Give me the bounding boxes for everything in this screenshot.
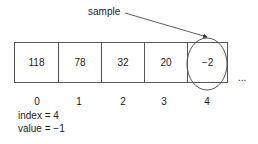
array-cell-0: 118 [14, 42, 59, 83]
array-cell-2: 32 [101, 42, 145, 83]
array-cell-4: −2 [187, 42, 228, 83]
cell-value: 20 [160, 57, 171, 68]
index-label-4: 4 [197, 96, 217, 107]
value-state: value = −1 [18, 123, 65, 135]
array-cell-1: 78 [58, 42, 102, 83]
array-ellipsis: ... [238, 72, 246, 84]
cell-value: 78 [74, 57, 85, 68]
index-label-2: 2 [113, 96, 133, 107]
sample-arrow-icon [125, 13, 207, 37]
cell-value: 32 [117, 57, 128, 68]
index-label-0: 0 [27, 96, 47, 107]
index-label-3: 3 [154, 96, 174, 107]
cell-value: −2 [202, 57, 213, 68]
index-state: index = 4 [18, 110, 59, 122]
cell-value: 118 [29, 57, 45, 68]
index-label-1: 1 [69, 96, 89, 107]
array-cell-3: 20 [144, 42, 188, 83]
